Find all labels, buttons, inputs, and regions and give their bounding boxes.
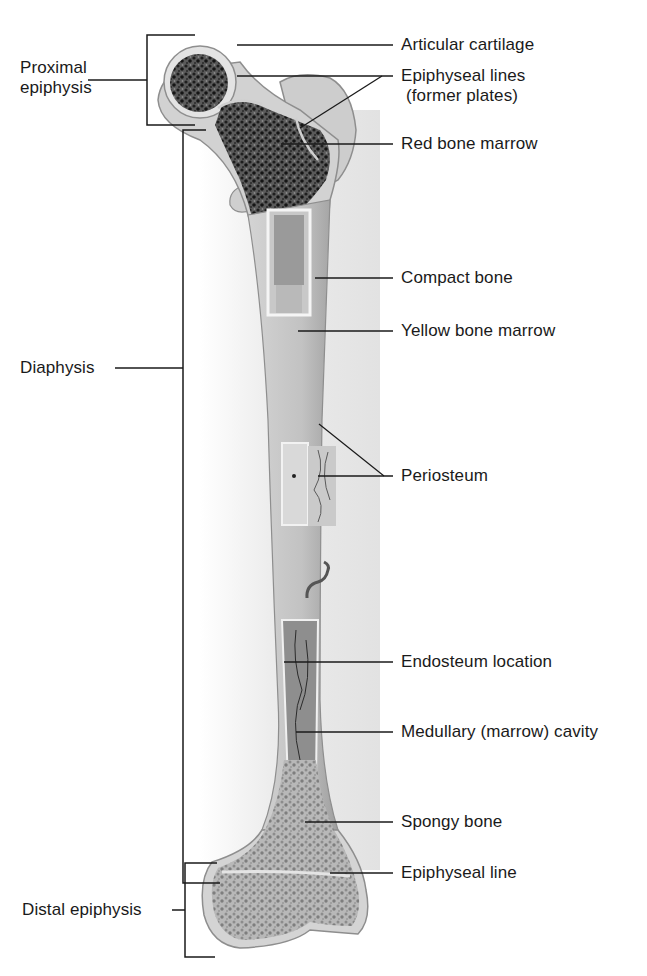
label-diaphysis: Diaphysis	[20, 358, 95, 378]
label-medullary-cavity: Medullary (marrow) cavity	[401, 722, 598, 742]
label-spongy-bone: Spongy bone	[401, 812, 502, 832]
label-yellow-bone-marrow: Yellow bone marrow	[401, 321, 555, 341]
label-compact-bone: Compact bone	[401, 268, 513, 288]
label-endosteum-location: Endosteum location	[401, 652, 552, 672]
label-proximal-epiphysis-line1: Proximal	[20, 58, 92, 78]
label-epiphyseal-lines: Epiphyseal lines (former plates)	[401, 66, 525, 106]
label-periosteum: Periosteum	[401, 466, 488, 486]
label-distal-epiphysis: Distal epiphysis	[22, 900, 142, 920]
bone-illustration	[0, 0, 647, 976]
label-proximal-epiphysis-line2: epiphysis	[20, 78, 92, 98]
diaphysis-shape	[248, 200, 338, 830]
label-proximal-epiphysis: Proximal epiphysis	[20, 58, 92, 98]
label-red-bone-marrow: Red bone marrow	[401, 134, 538, 154]
left-brackets	[88, 35, 220, 957]
label-epiphyseal-lines-line2: (former plates)	[401, 86, 525, 106]
label-epiphyseal-lines-line1: Epiphyseal lines	[401, 66, 525, 86]
label-epiphyseal-line: Epiphyseal line	[401, 863, 517, 883]
label-articular-cartilage: Articular cartilage	[401, 35, 534, 55]
diaphysis-bracket	[183, 130, 220, 883]
distal-epiphysis-shape	[202, 760, 368, 948]
